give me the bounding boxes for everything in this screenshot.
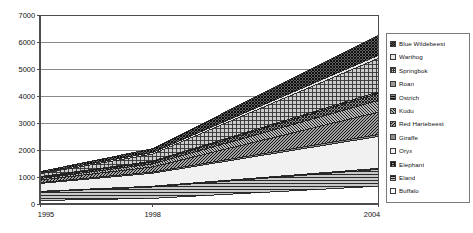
legend-swatch-icon [390,188,396,194]
legend-item-label: Red Hartebeest [399,117,444,130]
legend-swatch-icon [390,81,396,87]
legend-item[interactable]: Kudu [390,104,467,117]
legend-item-label: Roan [399,77,414,90]
legend-item[interactable]: Giraffe [390,131,467,144]
legend-swatch-icon [390,54,396,60]
y-axis-tick-label: 6000 [19,38,35,47]
y-axis-tick-label: 0 [31,200,35,209]
legend-item[interactable]: Springbok [390,64,467,77]
legend-item-label: Elephant [399,158,424,171]
y-axis-tick-label: 7000 [19,11,35,20]
legend-swatch-icon [390,148,396,154]
legend-swatch-icon [390,121,396,127]
x-axis-tick-label: 1998 [144,210,160,219]
stacked-area-chart: 01000200030004000500060007000 1995199820… [0,0,473,233]
legend-item[interactable]: Blue Wildebeest [390,37,467,50]
y-axis-tick-label: 1000 [19,173,35,182]
legend-item-label: Giraffe [399,131,418,144]
legend-item-label: Eland [399,171,415,184]
legend-item[interactable]: Ostrich [390,91,467,104]
legend-swatch-icon [390,94,396,100]
legend-item-label: Kudu [399,104,414,117]
y-axis-tick-label: 4000 [19,92,35,101]
legend-swatch-icon [390,161,396,167]
legend-swatch-icon [390,67,396,73]
x-axis-labels: 199519982004 [38,210,380,219]
legend-item-label: Springbok [399,64,428,77]
legend-item[interactable]: Red Hartebeest [390,117,467,130]
chart-legend: Blue Wildebeest Warthog Springbok Roan O… [386,33,470,203]
y-axis-labels: 01000200030004000500060007000 [19,11,35,209]
legend-item[interactable]: Eland [390,171,467,184]
y-axis-tick-label: 3000 [19,119,35,128]
x-axis-tick-label: 1995 [38,210,54,219]
legend-swatch-icon [390,41,396,47]
legend-item-label: Warthog [399,50,423,63]
legend-item[interactable]: Buffalo [390,184,467,197]
legend-item-label: Buffalo [399,184,419,197]
x-axis-tick-label: 2004 [364,210,380,219]
legend-item-label: Blue Wildebeest [399,37,445,50]
legend-swatch-icon [390,175,396,181]
y-axis-tick-label: 5000 [19,65,35,74]
legend-item[interactable]: Warthog [390,50,467,63]
legend-item-label: Ostrich [399,91,419,104]
legend-item[interactable]: Roan [390,77,467,90]
legend-item[interactable]: Elephant [390,158,467,171]
legend-swatch-icon [390,134,396,140]
legend-item[interactable]: Oryx [390,144,467,157]
legend-swatch-icon [390,108,396,114]
y-axis-tick-label: 2000 [19,146,35,155]
legend-item-label: Oryx [399,144,412,157]
